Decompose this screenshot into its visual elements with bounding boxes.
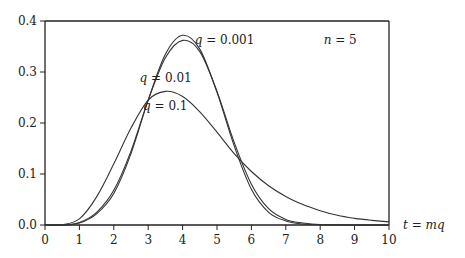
x-tick-label: 8 xyxy=(316,233,324,247)
x-tick-label: 6 xyxy=(248,233,256,247)
x-tick-label: 9 xyxy=(351,233,359,247)
x-tick-label: 10 xyxy=(381,233,396,247)
x-axis: 012345678910 xyxy=(41,225,396,247)
plot-frame xyxy=(45,21,389,225)
series-curves xyxy=(45,35,389,225)
y-axis: 0.00.10.20.30.4 xyxy=(18,14,45,232)
y-tick-label: 0.0 xyxy=(18,218,37,232)
x-tick-label: 0 xyxy=(41,233,49,247)
line-chart: 0.00.10.20.30.4 012345678910 n = 5q = 0.… xyxy=(0,0,465,258)
x-tick-label: 5 xyxy=(213,233,221,247)
annotation-label: q = 0.01 xyxy=(140,71,192,85)
x-tick-label: 1 xyxy=(76,233,84,247)
annotation-label: n = 5 xyxy=(324,33,357,47)
x-tick-label: 2 xyxy=(110,233,118,247)
x-tick-label: 7 xyxy=(282,233,290,247)
annotations: n = 5q = 0.001q = 0.01q = 0.1 xyxy=(140,33,357,113)
y-tick-label: 0.1 xyxy=(18,167,37,181)
series-line-2 xyxy=(45,91,389,225)
annotation-label: q = 0.1 xyxy=(143,99,187,113)
y-tick-label: 0.4 xyxy=(18,14,37,28)
x-tick-label: 3 xyxy=(144,233,152,247)
x-axis-label: t = mq xyxy=(403,218,445,232)
y-tick-label: 0.3 xyxy=(18,65,37,79)
annotation-label: q = 0.001 xyxy=(195,33,255,47)
y-tick-label: 0.2 xyxy=(18,116,37,130)
x-tick-label: 4 xyxy=(179,233,187,247)
